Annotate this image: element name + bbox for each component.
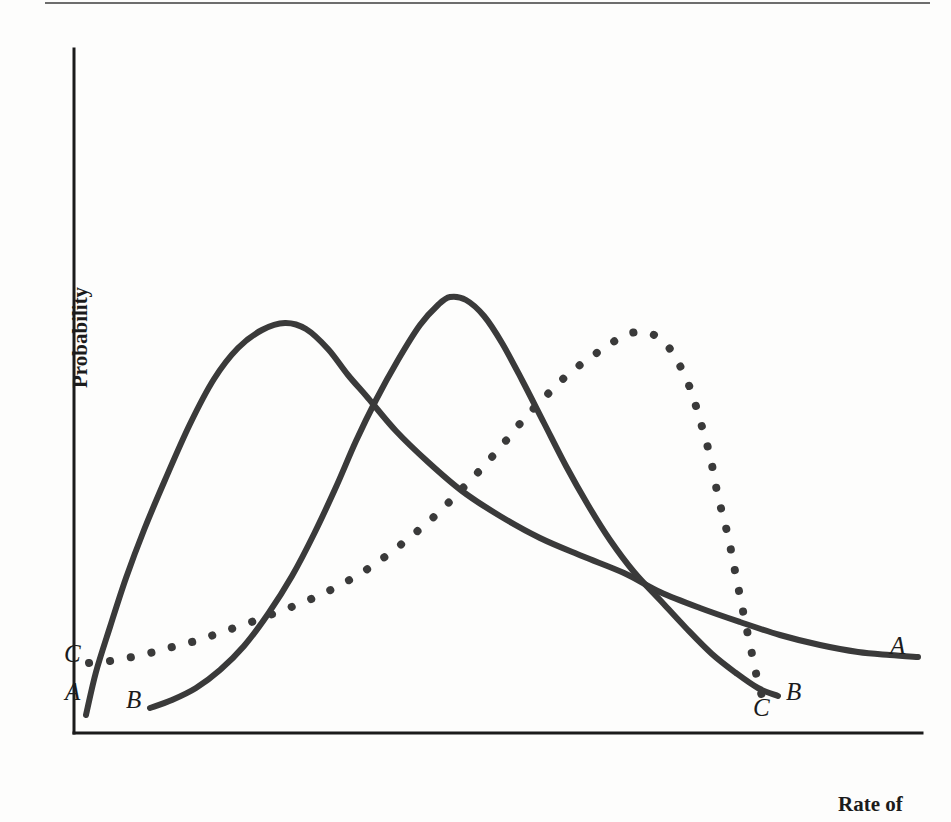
figure-page: Probability Rate of Return C A B A B C <box>0 0 951 822</box>
data-curves-group <box>86 297 918 715</box>
y-axis-label: Probability <box>22 228 140 388</box>
curve-label-a-end: A <box>890 632 905 660</box>
plot-canvas <box>0 0 951 822</box>
curve-label-c-start: C <box>64 640 81 668</box>
x-axis-label-line1: Rate of <box>838 793 903 817</box>
curve-label-b-end: B <box>786 678 801 706</box>
curve-label-a-start: A <box>65 678 80 706</box>
curve-label-b-start: B <box>126 686 141 714</box>
axes-group <box>74 49 922 733</box>
curve-c <box>89 332 764 703</box>
x-axis-label: Rate of Return <box>838 746 903 822</box>
curve-a <box>86 323 918 715</box>
curve-b <box>150 297 778 708</box>
curve-label-c-end: C <box>753 694 770 722</box>
probability-distribution-figure: Probability Rate of Return C A B A B C <box>0 0 951 822</box>
